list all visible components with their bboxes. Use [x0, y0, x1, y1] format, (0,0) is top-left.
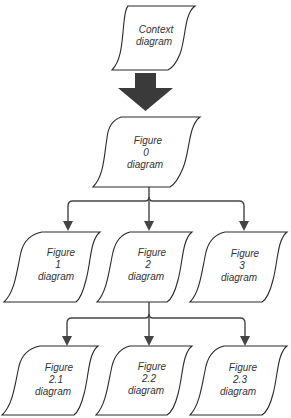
document-shape	[4, 232, 100, 302]
node-label-line: diagram	[220, 386, 256, 397]
node-figure-2-3-diagram: Figure 2.3 diagram	[190, 346, 287, 415]
arrowhead-icon	[239, 221, 249, 231]
node-label-line: 2	[144, 259, 151, 270]
arrowhead-icon	[144, 221, 154, 231]
node-label-line: diagram	[128, 271, 164, 282]
arrowhead-icon	[62, 336, 72, 346]
node-figure-3-diagram: Figure 3 diagram	[190, 232, 287, 302]
node-label-line: Figure	[138, 247, 167, 258]
node-label-line: Figure	[138, 361, 167, 372]
node-label-line: Figure	[45, 362, 74, 373]
node-figure-2-2-diagram: Figure 2.2 diagram	[96, 346, 192, 415]
node-label-line: Figure	[134, 135, 163, 146]
node-label-line: 0	[143, 147, 149, 158]
node-label-line: diagram	[136, 36, 172, 47]
node-label-line: diagram	[127, 159, 163, 170]
node-figure-2-1-diagram: Figure 2.1 diagram	[2, 346, 98, 415]
node-label-line: 2.3	[232, 374, 247, 385]
node-context-diagram: Context diagram	[112, 6, 195, 70]
node-label-line: diagram	[221, 272, 257, 283]
decomposition-diagram: Context diagram Figure 0 diagram Figure …	[0, 0, 291, 418]
arrowhead-icon	[63, 221, 73, 231]
node-figure-1-diagram: Figure 1 diagram	[4, 232, 100, 302]
node-label-line: diagram	[128, 385, 164, 396]
big-down-arrow-icon	[118, 73, 173, 111]
node-label-line: 3	[239, 260, 245, 271]
connector-fig2-to-children	[62, 302, 250, 346]
node-label-line: Context	[139, 24, 175, 35]
connector-fig0-to-children	[63, 187, 249, 231]
node-label-line: 2.1	[48, 374, 63, 385]
node-label-line: diagram	[35, 386, 71, 397]
arrowhead-icon	[144, 336, 154, 346]
node-figure-0-diagram: Figure 0 diagram	[93, 117, 200, 187]
node-label-line: Figure	[229, 362, 258, 373]
node-label-line: diagram	[38, 271, 74, 282]
node-figure-2-diagram: Figure 2 diagram	[97, 232, 192, 302]
node-label-line: 2.2	[141, 373, 156, 384]
node-label-line: Figure	[47, 247, 76, 258]
node-label-line: Figure	[231, 248, 260, 259]
node-label-line: 1	[55, 259, 61, 270]
arrowhead-icon	[240, 336, 250, 346]
